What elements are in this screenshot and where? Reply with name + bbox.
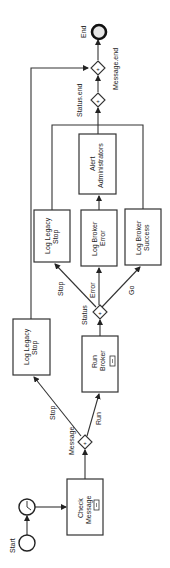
- task-run-broker[interactable]: Run Broker: [82, 336, 118, 392]
- gateway-label-message-end: Message.end: [112, 48, 120, 90]
- subprocess-marker-icon: [110, 356, 115, 366]
- start-label: Start: [9, 538, 16, 553]
- task-alert-administrators[interactable]: Alert Administrators: [79, 134, 116, 194]
- task-label-line2: Administrators: [97, 143, 104, 188]
- task-check-message[interactable]: Check Message: [67, 479, 103, 535]
- task-log-broker-success[interactable]: Log Broker Success: [125, 209, 161, 265]
- gateway-label-status-end: Status.end: [76, 83, 83, 117]
- plus-icon: +: [96, 66, 100, 72]
- plus-icon: +: [98, 310, 102, 316]
- task-label-line2: Error: [99, 230, 106, 246]
- edge-label-run: Run: [95, 412, 102, 425]
- gateway-message[interactable]: +: [78, 435, 92, 449]
- edge-label-stop-1: Stop: [49, 405, 57, 420]
- task-label-line1: Log Legacy: [44, 217, 52, 254]
- task-label-line2: Success: [143, 224, 150, 251]
- edge-label-error: Error: [89, 282, 96, 298]
- task-label-line1: Alert: [89, 157, 96, 171]
- end-event[interactable]: [92, 25, 106, 39]
- subprocess-marker-icon: [94, 500, 99, 510]
- process-diagram: Start End Check Message Run Broker Log L…: [0, 0, 170, 568]
- gateway-status-end[interactable]: +: [91, 93, 105, 107]
- task-label-line1: Check: [77, 498, 84, 518]
- plus-icon: +: [96, 98, 100, 104]
- task-label-line2: Broker: [99, 350, 106, 371]
- gateway-status[interactable]: +: [93, 305, 107, 319]
- task-label-line2: Stop: [31, 340, 39, 355]
- gateway-message-end[interactable]: +: [91, 61, 105, 75]
- edges: [27, 40, 143, 535]
- end-label: End: [80, 25, 87, 38]
- task-log-broker-error[interactable]: Log Broker Error: [81, 210, 117, 266]
- task-label-line1: Run: [91, 355, 98, 368]
- task-label-line1: Log Broker: [91, 221, 99, 256]
- start-event[interactable]: [19, 535, 35, 551]
- edge-label-go: Go: [128, 286, 135, 295]
- task-log-legacy-stop-1[interactable]: Log Legacy Stop: [13, 319, 50, 375]
- edge-label-stop-2: Stop: [57, 281, 65, 296]
- task-label-line1: Log Legacy: [23, 328, 31, 365]
- plus-icon: +: [83, 440, 87, 446]
- task-label-line2: Stop: [52, 229, 60, 244]
- task-log-legacy-stop-2[interactable]: Log Legacy Stop: [34, 210, 70, 262]
- task-label-line2: Message: [85, 495, 93, 524]
- gateway-label-status: Status: [81, 305, 88, 325]
- timer-event[interactable]: [19, 499, 35, 515]
- gateway-label-message: Message: [68, 426, 76, 455]
- task-label-line1: Log Broker: [135, 220, 143, 255]
